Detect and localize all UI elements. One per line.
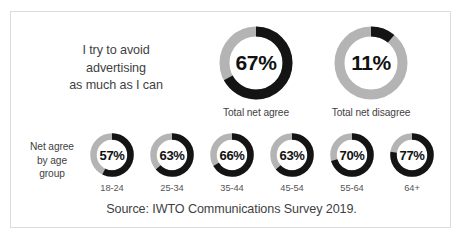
- donut-chart-total-net-agree: 67%: [219, 26, 293, 100]
- donut-value-label: 66%: [210, 133, 254, 177]
- donut-total-net-agree: 67% Total net agree: [209, 26, 303, 118]
- donut-value-label: 70%: [330, 133, 374, 177]
- donut-chart: 63%: [150, 133, 194, 177]
- infographic-frame: I try to avoid advertising as much as I …: [10, 11, 451, 228]
- donut-caption: 64+: [384, 183, 440, 193]
- donut-age-18-24: 57% 18-24: [84, 133, 140, 193]
- donut-chart: 77%: [390, 133, 434, 177]
- donut-chart: 57%: [90, 133, 134, 177]
- donut-chart-total-net-disagree: 11%: [334, 26, 408, 100]
- donut-caption: Total net disagree: [316, 107, 426, 118]
- donut-value-label: 67%: [219, 26, 293, 100]
- donut-age-45-54: 63% 45-54: [264, 133, 320, 193]
- donut-chart: 66%: [210, 133, 254, 177]
- donut-value-label: 11%: [334, 26, 408, 100]
- donut-value-label: 63%: [270, 133, 314, 177]
- source-note: Source: IWTO Communications Survey 2019.: [11, 202, 452, 216]
- donut-caption: 45-54: [264, 183, 320, 193]
- donut-total-net-disagree: 11% Total net disagree: [316, 26, 426, 118]
- age-group-axis-label: Net agree by age group: [21, 140, 83, 181]
- donut-age-25-34: 63% 25-34: [144, 133, 200, 193]
- donut-chart: 70%: [330, 133, 374, 177]
- statement-line-3: as much as I can: [27, 77, 205, 95]
- statement-line-2: advertising: [27, 60, 205, 78]
- donut-age-35-44: 66% 35-44: [204, 133, 260, 193]
- donut-caption: 18-24: [84, 183, 140, 193]
- age-group-label-line-3: group: [21, 167, 83, 181]
- donut-chart: 63%: [270, 133, 314, 177]
- age-group-section: Net agree by age group 57% 18-24: [11, 126, 452, 196]
- top-summary-section: I try to avoid advertising as much as I …: [11, 12, 452, 126]
- donut-caption: 25-34: [144, 183, 200, 193]
- statement-text: I try to avoid advertising as much as I …: [27, 42, 205, 95]
- age-group-label-line-1: Net agree: [21, 140, 83, 154]
- donut-age-64-plus: 77% 64+: [384, 133, 440, 193]
- donut-age-55-64: 70% 55-64: [324, 133, 380, 193]
- age-group-label-line-2: by age: [21, 154, 83, 168]
- donut-caption: Total net agree: [209, 107, 303, 118]
- donut-value-label: 77%: [390, 133, 434, 177]
- donut-caption: 55-64: [324, 183, 380, 193]
- infographic-root: I try to avoid advertising as much as I …: [0, 0, 472, 243]
- donut-value-label: 63%: [150, 133, 194, 177]
- donut-caption: 35-44: [204, 183, 260, 193]
- donut-value-label: 57%: [90, 133, 134, 177]
- statement-line-1: I try to avoid: [27, 42, 205, 60]
